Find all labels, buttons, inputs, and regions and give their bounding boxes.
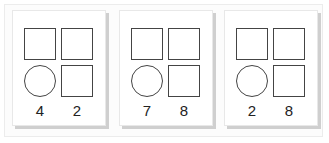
- circle-shape: [24, 65, 56, 97]
- square-shape: [168, 28, 200, 60]
- card-number-right: 8: [168, 102, 200, 119]
- square-shape: [168, 65, 200, 97]
- square-shape: [273, 65, 305, 97]
- circle-shape: [236, 65, 268, 97]
- square-shape: [273, 28, 305, 60]
- card-2: 7 8: [119, 10, 213, 126]
- square-shape: [61, 65, 93, 97]
- square-shape: [61, 28, 93, 60]
- square-shape: [236, 28, 268, 60]
- card-3: 2 8: [224, 10, 318, 126]
- card-1: 4 2: [12, 10, 106, 126]
- card-number-left: 7: [131, 102, 163, 119]
- circle-shape: [131, 65, 163, 97]
- card-number-right: 2: [61, 102, 93, 119]
- card-number-left: 2: [236, 102, 268, 119]
- card-number-left: 4: [24, 102, 56, 119]
- square-shape: [131, 28, 163, 60]
- card-number-right: 8: [273, 102, 305, 119]
- square-shape: [24, 28, 56, 60]
